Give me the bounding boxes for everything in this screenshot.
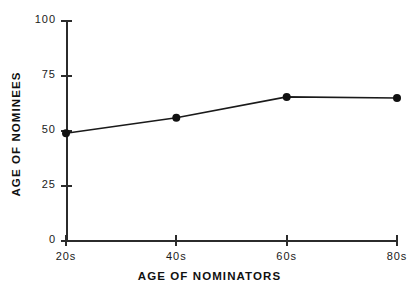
series-markers: [62, 93, 401, 137]
data-point-marker: [283, 93, 291, 101]
data-point-marker: [62, 129, 70, 137]
data-point-marker: [172, 114, 180, 122]
data-series-plot: [0, 0, 419, 297]
y-axis-title: AGE OF NOMINEES: [10, 64, 22, 204]
series-line: [66, 97, 397, 133]
x-axis-title: AGE OF NOMINATORS: [0, 270, 419, 282]
data-point-marker: [393, 94, 401, 102]
chart-figure: · · · · · · · 0255075100 20s40s60s80s AG…: [0, 0, 419, 297]
